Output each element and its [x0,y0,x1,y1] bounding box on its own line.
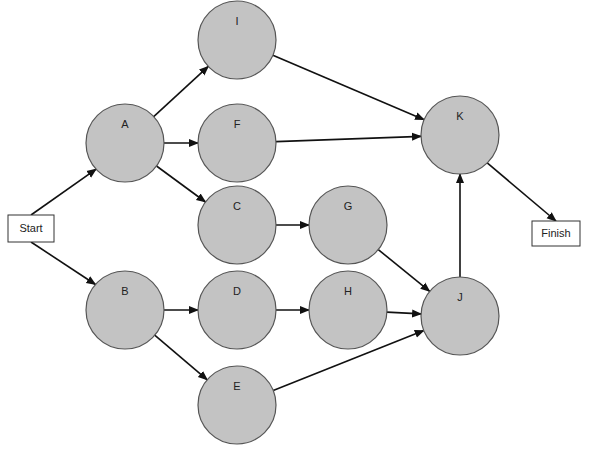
node-label: F [234,118,241,130]
node-circle [198,186,276,264]
node-label: J [457,291,463,303]
finish-box: Finish [532,221,580,246]
node-label: C [233,200,241,212]
node-circle [198,104,276,182]
node-label: I [235,15,238,27]
node-circle [309,186,387,264]
node-f: F [198,104,276,182]
node-c: C [198,186,276,264]
node-d: D [198,271,276,349]
node-circle [309,271,387,349]
arrow-a-to-c [157,166,206,202]
node-label: B [121,285,128,297]
nodes-layer: ABIFCGDHEJK [86,1,499,444]
arrow-a-to-i [154,66,209,116]
activity-network-diagram: ABIFCGDHEJK StartFinish [0,0,592,466]
node-label: E [233,380,240,392]
node-a: A [86,104,164,182]
start-label: Start [19,222,42,234]
node-circle [421,96,499,174]
node-h: H [309,271,387,349]
node-label: H [344,285,352,297]
node-circle [86,271,164,349]
node-circle [86,104,164,182]
arrow-g-to-j [378,250,429,292]
node-k: K [421,96,499,174]
arrow-b-to-e [155,335,208,380]
node-circle [198,271,276,349]
arrow-k-to-finish [487,163,556,221]
node-label: A [121,118,129,130]
terminals-layer: StartFinish [8,215,580,246]
node-b: B [86,271,164,349]
finish-label: Finish [541,227,570,239]
arrow-i-to-k [273,55,424,119]
node-label: D [233,285,241,297]
arrow-start-to-b [31,242,96,285]
start-box: Start [8,215,54,242]
node-label: K [456,110,464,122]
node-circle [198,366,276,444]
node-i: I [198,1,276,79]
node-circle [198,1,276,79]
node-g: G [309,186,387,264]
arrow-h-to-j [387,312,421,314]
arrow-f-to-k [276,136,421,141]
node-circle [421,277,499,355]
node-label: G [344,200,353,212]
arrow-start-to-a [31,169,96,215]
node-e: E [198,366,276,444]
node-j: J [421,277,499,355]
